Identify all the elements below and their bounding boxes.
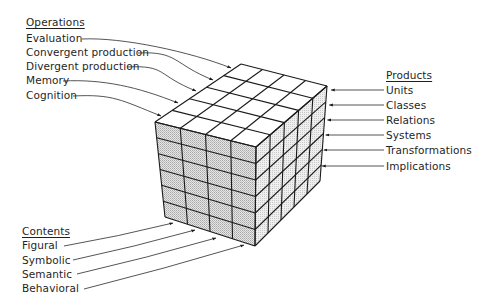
operations-heading: Operations bbox=[26, 16, 85, 28]
content-label-figural: Figural bbox=[22, 239, 58, 251]
operation-arrow bbox=[138, 53, 213, 80]
content-arrow bbox=[77, 238, 216, 274]
operation-label-divergent-production: Divergent production bbox=[26, 60, 139, 72]
contents-heading: Contents bbox=[22, 225, 70, 237]
product-label-units: Units bbox=[386, 84, 413, 96]
operation-label-evaluation: Evaluation bbox=[26, 32, 82, 44]
operation-label-convergent-production: Convergent production bbox=[26, 46, 149, 58]
product-label-classes: Classes bbox=[386, 99, 426, 111]
operation-arrow bbox=[73, 96, 161, 116]
structure-of-intellect-diagram: Operations Evaluation Convergent product… bbox=[0, 0, 485, 306]
content-label-semantic: Semantic bbox=[22, 268, 72, 280]
product-label-transformations: Transformations bbox=[386, 144, 472, 156]
content-label-behavioral: Behavioral bbox=[22, 282, 79, 294]
content-label-symbolic: Symbolic bbox=[22, 254, 71, 266]
content-arrow bbox=[73, 230, 195, 260]
products-heading: Products bbox=[386, 69, 432, 81]
operation-arrow bbox=[63, 81, 178, 103]
product-label-implications: Implications bbox=[386, 160, 451, 172]
content-arrow bbox=[64, 223, 173, 246]
operation-label-cognition: Cognition bbox=[26, 89, 77, 101]
product-label-systems: Systems bbox=[386, 129, 431, 141]
operation-label-memory: Memory bbox=[26, 74, 69, 86]
product-label-relations: Relations bbox=[386, 114, 435, 126]
